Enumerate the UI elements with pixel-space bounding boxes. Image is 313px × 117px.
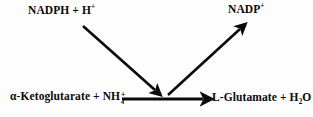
arrow-cofactor-in: [83, 26, 155, 90]
nadph-charge: +: [91, 3, 95, 11]
glutamate-text: L-Glutamate + H: [212, 91, 299, 103]
species-label-nadp: NADP+: [228, 4, 265, 16]
nadph-text: NADPH + H: [28, 4, 91, 16]
species-label-ketoglutarate-ammonium: α-Ketoglutarate + NH+4: [10, 91, 120, 103]
nadp-charge: +: [260, 2, 264, 10]
species-label-glutamate-water: L-Glutamate + H2O: [212, 92, 311, 104]
nadp-text: NADP: [228, 3, 260, 15]
reaction-diagram: NADPH + H+ NADP+ α-Ketoglutarate + NH+4 …: [0, 0, 313, 117]
ammonium-subscript: 4: [121, 99, 125, 106]
ammonium-charge: +: [121, 90, 126, 99]
species-label-nadph: NADPH + H+: [28, 5, 95, 17]
arrow-cofactor-out: [168, 29, 240, 95]
water-oxygen: O: [302, 91, 311, 103]
ketoglutarate-text: α-Ketoglutarate + NH: [10, 90, 120, 102]
